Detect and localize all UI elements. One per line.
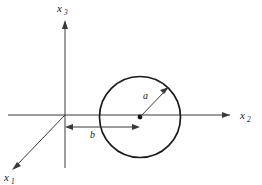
axis-x3-arrowhead <box>62 20 68 29</box>
axis-label-x1: x 1 <box>3 171 15 185</box>
diagram-canvas: x 3 x 2 x 1 a b <box>0 0 262 185</box>
radius-label-a: a <box>143 90 148 101</box>
offset-arrowhead-right <box>132 124 140 130</box>
axis-label-x3-subscript: 3 <box>63 8 68 17</box>
axis-label-x1-base: x <box>3 171 9 183</box>
radius-arrowhead <box>160 87 169 94</box>
axis-x1-arrowhead <box>12 162 21 170</box>
axis-label-x1-subscript: 1 <box>11 177 15 185</box>
coordinate-system-figure: x 3 x 2 x 1 a b <box>0 0 262 185</box>
axis-label-x3: x 3 <box>56 2 68 17</box>
axis-x1 <box>12 115 65 170</box>
axis-label-x3-base: x <box>56 2 62 14</box>
axis-x2 <box>8 112 230 118</box>
axis-x2-arrowhead <box>222 112 230 118</box>
axis-x3 <box>62 20 68 168</box>
axis-x1-line <box>16 115 65 166</box>
axis-label-x2: x 2 <box>239 109 251 124</box>
axis-label-x2-subscript: 2 <box>247 115 251 124</box>
offset-label-b: b <box>90 129 95 140</box>
offset-dimension <box>65 124 140 130</box>
offset-arrowhead-left <box>65 124 73 130</box>
axis-label-x2-base: x <box>239 109 245 121</box>
